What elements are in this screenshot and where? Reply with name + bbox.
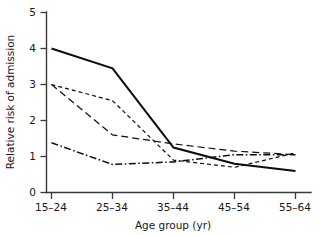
chart-figure: 5 4 3 2 1 0 15–24 25–34 35–44 45–54 55–6…	[0, 0, 320, 235]
y-tick-label: 0	[29, 186, 36, 198]
y-tick-label: 1	[29, 150, 36, 162]
x-axis-title: Age group (yr)	[135, 219, 211, 231]
y-axis-title: Relative risk of admission	[4, 35, 16, 169]
y-tick-label: 4	[29, 42, 36, 54]
y-tick-label: 5	[29, 6, 36, 18]
y-axis-ticks	[41, 13, 47, 193]
x-tick-label: 15–24	[35, 201, 67, 213]
series-short-dash	[52, 85, 296, 168]
y-axis-tick-labels: 5 4 3 2 1 0	[29, 6, 36, 198]
x-tick-label: 45–54	[218, 201, 250, 213]
x-tick-label: 25–34	[96, 201, 128, 213]
x-tick-label: 35–44	[157, 201, 189, 213]
x-axis-ticks	[52, 193, 296, 200]
line-chart-canvas: 5 4 3 2 1 0 15–24 25–34 35–44 45–54 55–6…	[0, 0, 320, 235]
x-axis-tick-labels: 15–24 25–34 35–44 45–54 55–64	[35, 201, 311, 213]
x-tick-label: 55–64	[279, 201, 311, 213]
y-tick-label: 3	[29, 78, 36, 90]
series-layer	[52, 49, 296, 171]
series-long-dash	[52, 85, 296, 155]
y-tick-label: 2	[29, 114, 36, 126]
